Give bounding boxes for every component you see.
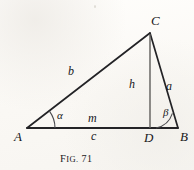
vertex-label-d: D <box>144 131 153 144</box>
angle-label-beta: β <box>163 107 168 118</box>
figure-caption-number: 71 <box>82 153 93 164</box>
side-label-m: m <box>88 112 97 124</box>
vertex-label-a: A <box>14 130 22 143</box>
side-label-a: a <box>166 80 172 92</box>
side-label-c: c <box>91 130 96 142</box>
vertex-label-c: C <box>151 14 160 27</box>
triangle-diagram <box>0 0 194 170</box>
side-label-b: b <box>68 65 74 77</box>
triangle-outline <box>27 33 178 128</box>
figure-caption-prefix-rest: ig. <box>66 154 78 164</box>
angle-label-alpha: α <box>57 110 63 121</box>
angle-arc-alpha <box>50 111 55 128</box>
figure-caption: Fig.71 <box>60 148 92 166</box>
figure-caption-prefix: Fig. <box>60 154 79 164</box>
figure-container: A B C D b a h m c α β Fig.71 <box>0 0 194 170</box>
side-label-h: h <box>129 78 135 90</box>
vertex-label-b: B <box>180 130 188 143</box>
